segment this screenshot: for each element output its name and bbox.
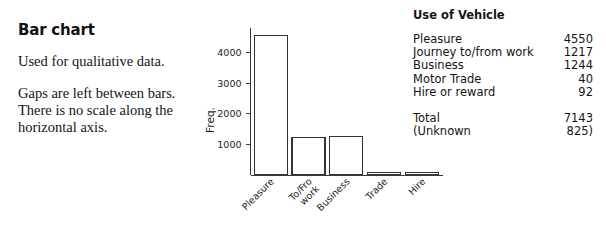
table-row: Motor Trade40 <box>413 73 593 86</box>
table-cell-label: Business <box>413 59 464 72</box>
table-summary: Total7143(Unknown825) <box>413 112 593 139</box>
table-cell-value: 92 <box>559 86 593 99</box>
bar <box>292 138 325 175</box>
table-cell-value: 825) <box>559 125 593 138</box>
table-cell-label: (Unknown <box>413 125 471 138</box>
bar <box>254 36 287 175</box>
page-title: Bar chart <box>18 22 208 39</box>
y-axis-tick-label: 2000 <box>217 108 241 119</box>
y-axis-tick-label: 4000 <box>217 47 241 58</box>
table-row: Business1244 <box>413 59 593 72</box>
table-row: (Unknown825) <box>413 125 593 138</box>
table-cell-label: Journey to/from work <box>413 46 534 59</box>
table-row: Journey to/from work1217 <box>413 46 593 59</box>
bar <box>406 172 439 175</box>
table-row: Total7143 <box>413 112 593 125</box>
table-cell-value: 40 <box>559 73 593 86</box>
description-paragraph-1: Used for qualitative data. <box>18 53 208 70</box>
x-axis-label: Hire <box>406 176 428 198</box>
y-axis-tick-label: 1000 <box>217 139 241 150</box>
table-body: Pleasure4550Journey to/from work1217Busi… <box>413 33 593 100</box>
page-root: Bar chart Used for qualitative data. Gap… <box>0 0 606 233</box>
y-axis-title: Freq. <box>204 107 216 133</box>
table-cell-label: Hire or reward <box>413 86 495 99</box>
table-cell-value: 1217 <box>559 46 593 59</box>
table-cell-value: 7143 <box>559 112 593 125</box>
bar-chart: 1000200030004000 PleasureTo/FroworkBusin… <box>200 0 415 233</box>
table-row: Pleasure4550 <box>413 33 593 46</box>
bar-chart-svg: 1000200030004000 PleasureTo/FroworkBusin… <box>200 0 415 233</box>
x-axis-label: Pleasure <box>240 176 277 213</box>
table-cell-value: 4550 <box>559 33 593 46</box>
table-cell-value: 1244 <box>559 59 593 72</box>
table-title: Use of Vehicle <box>413 9 593 22</box>
table-cell-label: Motor Trade <box>413 73 481 86</box>
table-row: Hire or reward92 <box>413 86 593 99</box>
x-axis-labels: PleasureTo/FroworkBusinessTradeHire <box>240 175 428 213</box>
x-axis-label: Business <box>314 176 351 213</box>
table-cell-label: Pleasure <box>413 33 462 46</box>
description-panel: Bar chart Used for qualitative data. Gap… <box>18 22 208 136</box>
bar-series <box>254 36 439 175</box>
bar <box>368 173 401 175</box>
x-axis-label: Trade <box>363 176 390 203</box>
table-cell-label: Total <box>413 112 440 125</box>
bar <box>330 137 363 175</box>
y-axis-tick-label: 3000 <box>217 78 241 89</box>
y-axis-ticks: 1000200030004000 <box>217 47 250 150</box>
vehicle-use-table: Use of Vehicle Pleasure4550Journey to/fr… <box>413 9 593 138</box>
description-paragraph-2: Gaps are left between bars. There is no … <box>18 85 208 136</box>
